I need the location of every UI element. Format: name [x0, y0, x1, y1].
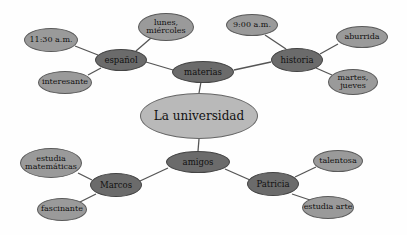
- branch-node-materias: materias: [172, 61, 234, 83]
- leaf-node-espanol-desc: interesante: [38, 71, 92, 94]
- link-historia-time: [265, 35, 286, 49]
- leaf-node-historia-desc: aburrida: [336, 26, 388, 48]
- center-node-la-universidad: La universidad: [140, 93, 258, 139]
- concept-map: La universidad materias amigos español h…: [0, 0, 407, 235]
- leaf-node-marcos-desc: fascinante: [37, 198, 87, 221]
- leaf-node-historia-days: martes, jueves: [328, 69, 378, 95]
- link-historia-desc: [320, 44, 338, 54]
- link-marcos-study: [78, 173, 92, 180]
- link-center-amigos: [198, 139, 199, 151]
- leaf-node-marcos-study: estudia matemáticas: [20, 148, 82, 178]
- link-center-materias: [199, 82, 201, 93]
- branch-node-amigos: amigos: [166, 151, 230, 173]
- friend-node-patricia: Patricia: [247, 172, 299, 196]
- leaf-node-espanol-time: 11:30 a.m.: [24, 28, 78, 52]
- link-marcos-desc: [80, 194, 96, 202]
- leaf-node-historia-time: 9:00 a.m.: [226, 14, 278, 36]
- link-espanol-days: [136, 38, 151, 51]
- link-espanol-desc: [88, 68, 101, 75]
- leaf-node-patricia-study: estudia arte: [302, 196, 354, 219]
- link-espanol-time: [75, 46, 98, 55]
- link-materias-espanol: [146, 62, 173, 70]
- leaf-node-espanol-days: lunes, miércoles: [138, 13, 194, 41]
- link-materias-historia: [234, 62, 271, 70]
- subject-node-historia: historia: [271, 48, 323, 72]
- link-patricia-desc: [295, 167, 316, 177]
- link-amigos-marcos: [140, 168, 168, 181]
- link-amigos-patricia: [225, 169, 250, 180]
- subject-node-espanol: español: [95, 49, 147, 71]
- leaf-node-patricia-desc: talentosa: [313, 150, 363, 172]
- friend-node-marcos: Marcos: [90, 173, 142, 197]
